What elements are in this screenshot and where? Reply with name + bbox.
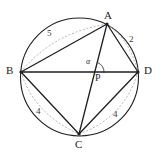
vertex-label-A: A [104, 10, 112, 21]
circumcircle [21, 18, 139, 136]
vertex-dot-D [136, 70, 139, 73]
dashed-arc-group [21, 24, 138, 134]
length-label-AD: 2 [129, 35, 134, 44]
diagonal-AC [79, 24, 107, 134]
vertex-label-B: B [6, 65, 13, 76]
vertex-label-D: D [144, 65, 152, 76]
vertex-dot-C [77, 132, 80, 135]
geometry-diagram: A B C D P α 5 2 4 4 [0, 0, 161, 160]
quadrilateral-sides [21, 24, 138, 134]
side-CD [79, 72, 138, 134]
side-AB [21, 24, 107, 72]
vertex-dot-A [105, 22, 108, 25]
vertex-label-C: C [75, 139, 82, 150]
side-AD [107, 24, 138, 72]
angle-label-alpha: α [86, 58, 90, 66]
length-label-AB: 5 [47, 29, 52, 38]
length-label-CD: 4 [113, 110, 118, 119]
diagram-canvas [0, 0, 161, 160]
vertex-dot-B [19, 70, 22, 73]
side-BC [21, 72, 79, 134]
diagonal-group [21, 24, 138, 134]
intersection-label-P: P [95, 73, 101, 83]
length-label-BC: 4 [36, 107, 41, 116]
